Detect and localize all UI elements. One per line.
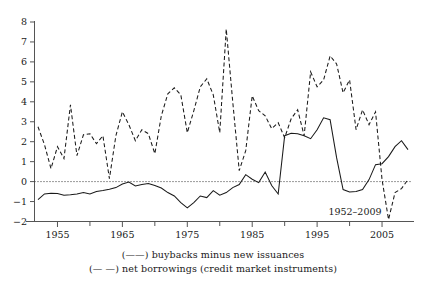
x-tick-group: 195519651975198519952005 [45, 222, 394, 241]
x-tick-label: 1955 [45, 229, 69, 240]
y-tick-label: 4 [21, 96, 27, 107]
legend-entry-solid: (——) buybacks minus new issuances [0, 248, 426, 262]
chart-legend: (——) buybacks minus new issuances (— —) … [0, 248, 426, 276]
x-tick-label: 2005 [370, 229, 394, 240]
x-tick-label: 1995 [305, 229, 329, 240]
x-tick-label: 1985 [240, 229, 264, 240]
legend-label-solid: buybacks minus new issuances [152, 249, 305, 260]
y-tick-label: 3 [21, 116, 27, 127]
y-tick-label: 2 [21, 136, 27, 147]
legend-label-dashed: net borrowings (credit market instrument… [122, 263, 337, 274]
x-tick-label: 1965 [110, 229, 134, 240]
y-tick-label: 1 [21, 156, 27, 167]
y-tick-label: 8 [21, 16, 27, 27]
chart-range-annotation: 1952–2009 [328, 206, 381, 217]
y-tick-label: −1 [13, 196, 27, 207]
series-line-net-borrowings [38, 29, 408, 220]
y-tick-label: −2 [13, 216, 27, 227]
y-tick-label: 6 [21, 56, 27, 67]
y-tick-label: 7 [21, 36, 27, 47]
y-tick-label: 0 [21, 176, 27, 187]
legend-key-solid: (——) [122, 249, 149, 260]
series-line-buybacks-minus-new-issuances [38, 118, 408, 208]
y-tick-group: −2−1012345678 [13, 16, 35, 227]
legend-entry-dashed: (— —) net borrowings (credit market inst… [0, 262, 426, 276]
x-tick-label: 1975 [175, 229, 199, 240]
legend-key-dashed: (— —) [89, 263, 119, 274]
y-tick-label: 5 [21, 76, 27, 87]
chart-figure: −2−1012345678 195519651975198519952005 1… [0, 0, 426, 293]
